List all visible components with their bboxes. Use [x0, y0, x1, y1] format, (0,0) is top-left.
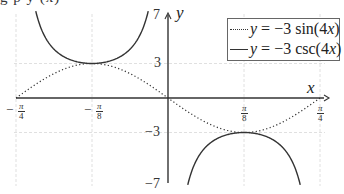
x-tick-sign: − — [84, 102, 91, 118]
legend-label-suffix: ) — [334, 20, 339, 37]
dotted-line-swatch-icon — [230, 29, 248, 30]
legend-item-csc: yy = −3 csc(4 = −3 csc(4x) — [230, 39, 341, 59]
legend-label: yy = −3 csc(4 = −3 csc(4x) — [250, 40, 341, 58]
legend-text: = −3 csc(4 — [257, 40, 329, 57]
solid-line-swatch-icon — [230, 49, 248, 50]
x-axis-label: x — [307, 78, 315, 98]
legend-item-sin: yy = −3 sin(4 = −3 sin(4x) — [230, 19, 340, 39]
x-tick-den: 4 — [18, 112, 25, 121]
x-tick-den: 8 — [241, 114, 248, 123]
y-tick-label-3: 3 — [154, 55, 161, 71]
legend-text: = −3 sin(4 — [257, 20, 327, 37]
y-tick-label-neg3: −3 — [145, 124, 160, 140]
x-tick-den: 8 — [96, 112, 103, 121]
x-tick-den: 4 — [317, 114, 324, 123]
legend-var: x — [329, 40, 336, 57]
legend: yy = −3 sin(4 = −3 sin(4x) yy = −3 csc(4… — [227, 18, 340, 61]
y-tick-label-neg7: −7 — [145, 176, 160, 192]
x-tick-sign: − — [6, 102, 13, 118]
y-tick-label-7: 7 — [153, 7, 160, 23]
legend-label-suffix: ) — [336, 40, 341, 57]
y-axis-label: y — [176, 3, 184, 23]
legend-label: yy = −3 sin(4 = −3 sin(4x) — [250, 20, 340, 38]
